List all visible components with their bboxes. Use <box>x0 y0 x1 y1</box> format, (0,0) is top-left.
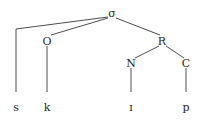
edge-rime-nucleus <box>135 46 159 58</box>
node-rime: R <box>158 35 167 48</box>
node-sigma: σ <box>108 7 116 20</box>
segment-i: ɪ <box>129 101 133 114</box>
node-onset: O <box>42 35 51 48</box>
edges <box>16 17 186 92</box>
node-coda: C <box>182 57 190 70</box>
segment-k: k <box>44 101 51 114</box>
node-labels: σ O R N C s k ɪ p <box>13 7 190 114</box>
syllable-tree-diagram: σ O R N C s k ɪ p <box>0 0 202 126</box>
node-nucleus: N <box>126 57 136 70</box>
segment-p: p <box>182 101 189 114</box>
segment-s: s <box>13 101 19 114</box>
edge-sigma-s <box>16 17 108 92</box>
edge-sigma-rime <box>116 18 160 35</box>
